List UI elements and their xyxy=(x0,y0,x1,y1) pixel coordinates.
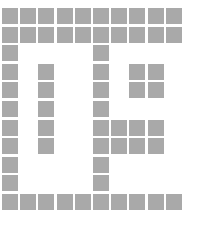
grid-cell-r0-c1 xyxy=(20,8,36,24)
grid-cell-r2-c6 xyxy=(111,45,127,61)
grid-cell-r3-c2 xyxy=(38,64,54,80)
grid-cell-r5-c3 xyxy=(57,101,73,117)
grid-cell-r6-c5 xyxy=(93,120,109,136)
grid-cell-r1-c7 xyxy=(129,27,145,43)
grid-cell-r10-c0 xyxy=(2,194,18,210)
grid-cell-r1-c4 xyxy=(75,27,91,43)
grid-cell-r2-c5 xyxy=(93,45,109,61)
grid-cell-r8-c5 xyxy=(93,157,109,173)
grid-cell-r4-c1 xyxy=(20,82,36,98)
grid-cell-r1-c3 xyxy=(57,27,73,43)
grid-cell-r8-c2 xyxy=(38,157,54,173)
grid-cell-r1-c5 xyxy=(93,27,109,43)
grid-cell-r8-c6 xyxy=(111,157,127,173)
grid-cell-r4-c8 xyxy=(148,82,164,98)
grid-cell-r7-c9 xyxy=(166,138,182,154)
grid-cell-r7-c5 xyxy=(93,138,109,154)
grid-cell-r3-c8 xyxy=(148,64,164,80)
grid-cell-r1-c0 xyxy=(2,27,18,43)
grid-cell-r10-c1 xyxy=(20,194,36,210)
grid-cell-r5-c0 xyxy=(2,101,18,117)
grid-cell-r3-c5 xyxy=(93,64,109,80)
grid-cell-r1-c2 xyxy=(38,27,54,43)
grid-cell-r6-c2 xyxy=(38,120,54,136)
grid-cell-r7-c7 xyxy=(129,138,145,154)
grid-cell-r0-c6 xyxy=(111,8,127,24)
grid-cell-r0-c9 xyxy=(166,8,182,24)
grid-cell-r7-c2 xyxy=(38,138,54,154)
grid-cell-r5-c1 xyxy=(20,101,36,117)
grid-cell-r0-c8 xyxy=(148,8,164,24)
grid-cell-r1-c6 xyxy=(111,27,127,43)
grid-cell-r6-c0 xyxy=(2,120,18,136)
grid-cell-r0-c2 xyxy=(38,8,54,24)
grid-cell-r3-c0 xyxy=(2,64,18,80)
grid-cell-r2-c9 xyxy=(166,45,182,61)
grid-cell-r8-c3 xyxy=(57,157,73,173)
grid-cell-r6-c4 xyxy=(75,120,91,136)
grid-cell-r9-c8 xyxy=(148,175,164,191)
grid-cell-r2-c7 xyxy=(129,45,145,61)
grid-cell-r3-c6 xyxy=(111,64,127,80)
grid-cell-r10-c5 xyxy=(93,194,109,210)
grid-cell-r5-c4 xyxy=(75,101,91,117)
grid-cell-r2-c2 xyxy=(38,45,54,61)
grid-cell-r10-c6 xyxy=(111,194,127,210)
grid-cell-r2-c0 xyxy=(2,45,18,61)
grid-cell-r7-c0 xyxy=(2,138,18,154)
grid-cell-r4-c7 xyxy=(129,82,145,98)
grid-cell-r0-c5 xyxy=(93,8,109,24)
grid-cell-r4-c2 xyxy=(38,82,54,98)
grid-cell-r3-c3 xyxy=(57,64,73,80)
grid-cell-r0-c0 xyxy=(2,8,18,24)
grid-cell-r10-c4 xyxy=(75,194,91,210)
grid-cell-r5-c5 xyxy=(93,101,109,117)
grid-cell-r4-c3 xyxy=(57,82,73,98)
grid-cell-r9-c2 xyxy=(38,175,54,191)
grid-cell-r5-c9 xyxy=(166,101,182,117)
grid-cell-r6-c8 xyxy=(148,120,164,136)
grid-cell-r6-c1 xyxy=(20,120,36,136)
grid-cell-r8-c4 xyxy=(75,157,91,173)
grid-cell-r2-c4 xyxy=(75,45,91,61)
grid-cell-r5-c8 xyxy=(148,101,164,117)
grid-cell-r3-c7 xyxy=(129,64,145,80)
grid-cell-r8-c1 xyxy=(20,157,36,173)
grid-cell-r9-c1 xyxy=(20,175,36,191)
grid-cell-r3-c9 xyxy=(166,64,182,80)
grid-cell-r9-c9 xyxy=(166,175,182,191)
grid-cell-r8-c8 xyxy=(148,157,164,173)
grid-cell-r7-c1 xyxy=(20,138,36,154)
grid-cell-r2-c3 xyxy=(57,45,73,61)
grid-cell-r7-c3 xyxy=(57,138,73,154)
grid-cell-r6-c9 xyxy=(166,120,182,136)
grid-cell-r4-c9 xyxy=(166,82,182,98)
grid-cell-r6-c7 xyxy=(129,120,145,136)
grid-cell-r5-c2 xyxy=(38,101,54,117)
grid-cell-r8-c9 xyxy=(166,157,182,173)
grid-cell-r2-c8 xyxy=(148,45,164,61)
grid-cell-r0-c3 xyxy=(57,8,73,24)
grid-cell-r9-c5 xyxy=(93,175,109,191)
grid-cell-r5-c6 xyxy=(111,101,127,117)
grid-cell-r10-c2 xyxy=(38,194,54,210)
grid-cell-r0-c4 xyxy=(75,8,91,24)
grid-cell-r10-c3 xyxy=(57,194,73,210)
grid-cell-r3-c1 xyxy=(20,64,36,80)
grid-cell-r7-c4 xyxy=(75,138,91,154)
grid-cell-r5-c7 xyxy=(129,101,145,117)
grid-cell-r10-c9 xyxy=(166,194,182,210)
grid-cell-r8-c7 xyxy=(129,157,145,173)
grid-cell-r9-c6 xyxy=(111,175,127,191)
grid-cell-r9-c0 xyxy=(2,175,18,191)
grid-cell-r9-c7 xyxy=(129,175,145,191)
grid-cell-r6-c6 xyxy=(111,120,127,136)
grid-cell-r7-c6 xyxy=(111,138,127,154)
grid-cell-r1-c1 xyxy=(20,27,36,43)
grid-cell-r2-c1 xyxy=(20,45,36,61)
grid-cell-r0-c7 xyxy=(129,8,145,24)
grid-cell-r4-c5 xyxy=(93,82,109,98)
grid-cell-r1-c9 xyxy=(166,27,182,43)
grid-cell-r10-c8 xyxy=(148,194,164,210)
grid-cell-r9-c3 xyxy=(57,175,73,191)
